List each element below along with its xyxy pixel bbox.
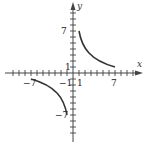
y-axis-label: y bbox=[76, 1, 83, 11]
x-axis-arrow-icon bbox=[135, 71, 143, 76]
y-tick-label-pos1: 1 bbox=[65, 62, 71, 72]
x-tick-label-neg1: −1 bbox=[59, 78, 72, 88]
y-tick-label-pos7: 7 bbox=[61, 26, 67, 36]
y-axis-arrow-icon bbox=[71, 2, 76, 10]
curve-first-quadrant bbox=[79, 31, 115, 67]
x-axis-label: x bbox=[137, 59, 142, 69]
x-tick-label-pos7: 7 bbox=[111, 78, 117, 88]
x-axis: x −7 −1 1 7 bbox=[5, 59, 143, 88]
function-graph: x −7 −1 1 7 bbox=[0, 0, 153, 154]
x-tick-label-pos1: 1 bbox=[77, 78, 83, 88]
